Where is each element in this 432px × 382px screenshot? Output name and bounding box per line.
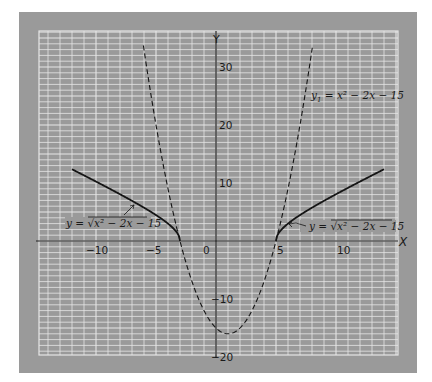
- y-axis-label: Y: [212, 33, 220, 46]
- right-branch-annotation: y = √x² − 2x − 15: [289, 220, 404, 232]
- svg-text:y = √x² − 2x − 15: y = √x² − 2x − 15: [65, 217, 161, 229]
- x-tick-label: 5: [277, 244, 284, 256]
- y-tick-label: 20: [219, 119, 232, 131]
- svg-text:y = √x² − 2x − 15: y = √x² − 2x − 15: [308, 220, 404, 232]
- y-tick-label: 10: [219, 177, 232, 189]
- x-tick-label: −5: [146, 244, 161, 256]
- annotation-right-prefix: y = √: [308, 220, 337, 232]
- chart-panel: [19, 12, 417, 373]
- y-tick-label: −10: [211, 293, 233, 305]
- x-tick-label: −10: [86, 244, 108, 256]
- annotation-left-radicand: x² − 2x − 15: [94, 217, 161, 229]
- annotation-formula: = x² − 2x − 15: [321, 89, 404, 101]
- chart: −10−50510302010−10−20 Y X y1 = x² − 2x −…: [0, 0, 432, 382]
- y-tick-label: 30: [219, 61, 232, 73]
- x-tick-label: 10: [337, 244, 350, 256]
- y-tick-label: −20: [211, 351, 233, 363]
- annotation-left-prefix: y = √: [65, 217, 94, 229]
- x-tick-label: 0: [203, 244, 210, 256]
- annotation-right-radicand: x² − 2x − 15: [337, 220, 404, 232]
- x-axis-label: X: [398, 235, 408, 249]
